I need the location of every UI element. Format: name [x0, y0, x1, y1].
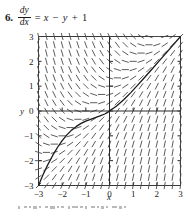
- slope-mark: [76, 75, 79, 81]
- slope-mark: [132, 166, 133, 172]
- slope-mark: [116, 133, 119, 139]
- slope-mark: [83, 126, 88, 130]
- x-tick-label: −3: [34, 189, 44, 199]
- scan-speck: [29, 206, 31, 208]
- slope-mark: [147, 92, 150, 98]
- slope-mark: [156, 149, 157, 155]
- slope-mark: [139, 92, 142, 98]
- slope-mark: [92, 149, 95, 155]
- slope-mark: [91, 84, 96, 88]
- slope-mark: [60, 174, 63, 180]
- slope-mark: [124, 125, 127, 131]
- slope-mark: [172, 100, 174, 106]
- slope-mark: [67, 118, 73, 120]
- slope-mark: [46, 58, 48, 64]
- slope-mark: [84, 134, 89, 139]
- slope-mark: [92, 158, 95, 164]
- slope-mark: [124, 149, 126, 155]
- slope-mark: [123, 84, 128, 88]
- slope-mark: [69, 58, 71, 64]
- slope-mark: [51, 135, 57, 137]
- scan-speck: [97, 206, 99, 208]
- slope-mark: [124, 116, 127, 122]
- slope-mark: [91, 125, 96, 130]
- slope-mark: [172, 182, 173, 188]
- equation-right-hand-side: x − y + 1: [44, 12, 88, 23]
- slope-mark: [148, 166, 149, 172]
- x-tick-label: −2: [57, 189, 67, 199]
- slope-mark: [100, 125, 104, 130]
- slope-mark: [76, 67, 79, 73]
- scan-speck: [80, 206, 83, 208]
- slope-mark: [53, 42, 55, 48]
- x-tick-label: 3: [178, 189, 183, 199]
- scan-speck: [61, 206, 64, 208]
- slope-mark: [140, 166, 141, 172]
- slope-mark: [69, 75, 72, 81]
- slope-mark: [124, 166, 126, 172]
- y-tick-label: 2: [29, 57, 34, 67]
- slope-mark: [115, 42, 119, 47]
- scan-speck: [45, 206, 48, 208]
- slope-mark: [172, 166, 173, 172]
- slope-mark: [101, 166, 103, 172]
- slope-mark: [130, 76, 135, 80]
- slope-mark: [140, 100, 143, 106]
- x-tick-label: 2: [155, 189, 160, 199]
- slope-mark: [148, 100, 151, 106]
- slope-mark: [164, 124, 166, 130]
- slope-mark: [156, 91, 159, 97]
- rhs-plus-operator: +: [71, 12, 79, 23]
- slope-mark: [77, 174, 80, 180]
- slope-mark: [140, 133, 142, 139]
- scan-speck: [72, 206, 78, 208]
- slope-mark: [156, 141, 157, 147]
- slope-mark: [164, 166, 165, 172]
- slope-mark: [53, 75, 55, 81]
- slope-mark: [100, 42, 103, 48]
- slope-mark: [84, 84, 89, 89]
- slope-mark: [116, 116, 119, 122]
- scan-speck: [57, 206, 59, 208]
- y-tick-label: −1: [24, 131, 34, 141]
- slope-mark: [43, 160, 49, 162]
- slope-mark: [172, 133, 173, 139]
- scan-speck: [18, 206, 20, 209]
- slope-mark: [91, 93, 97, 95]
- slope-mark: [156, 157, 157, 163]
- slope-mark: [132, 116, 135, 122]
- slope-mark: [148, 157, 149, 163]
- slope-mark: [116, 141, 118, 147]
- slope-mark: [45, 67, 47, 73]
- x-tick-label: −1: [81, 189, 91, 199]
- slope-mark: [52, 159, 57, 163]
- slope-mark: [147, 75, 151, 80]
- slope-mark: [100, 133, 103, 139]
- slope-mark: [139, 84, 143, 89]
- slope-mark: [164, 116, 166, 122]
- slope-mark: [68, 150, 73, 155]
- slope-field-plot: −3−2−10123 −3−2−10123 x y: [0, 30, 193, 202]
- slope-mark: [116, 125, 119, 131]
- slope-mark: [171, 67, 174, 73]
- slope-mark: [140, 149, 142, 155]
- derivative-fraction: dy dx: [18, 6, 31, 28]
- rhs-term-x: x: [44, 12, 49, 23]
- slope-mark: [156, 174, 157, 180]
- slope-mark: [76, 166, 79, 172]
- slope-mark: [130, 43, 135, 47]
- slope-mark: [84, 75, 88, 80]
- slope-mark: [99, 76, 104, 80]
- slope-mark: [124, 158, 126, 164]
- slope-mark: [60, 100, 64, 105]
- slope-mark: [164, 100, 166, 106]
- slope-mark: [77, 58, 80, 64]
- slope-mark: [148, 116, 150, 122]
- slope-mark: [122, 60, 128, 62]
- slope-mark: [61, 42, 63, 48]
- slope-mark: [100, 50, 103, 56]
- slope-mark: [69, 50, 71, 56]
- slope-mark: [91, 76, 96, 81]
- slope-mark: [164, 133, 165, 139]
- slope-mark: [46, 50, 48, 56]
